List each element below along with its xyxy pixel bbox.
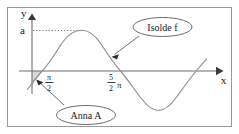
xtick-pi-over-2-numerator: π	[47, 73, 51, 82]
y-axis-label: y	[21, 7, 27, 19]
xtick-five-halves-pi-suffix: π	[117, 80, 122, 90]
function-plot-figure: y x a π 2 5 2 π Isolde f Anna A	[0, 0, 239, 134]
callout-isolde-label: Isolde f	[147, 22, 178, 33]
xtick-five-halves-pi-denominator: 2	[109, 84, 113, 93]
callout-anna-label: Anna A	[71, 110, 103, 121]
xtick-five-halves-pi-numerator: 5	[109, 73, 113, 82]
figure-frame	[8, 8, 232, 127]
x-axis-label: x	[221, 74, 227, 86]
figure-container: y x a π 2 5 2 π Isolde f Anna A	[0, 0, 239, 134]
y-amplitude-label: a	[20, 24, 25, 36]
